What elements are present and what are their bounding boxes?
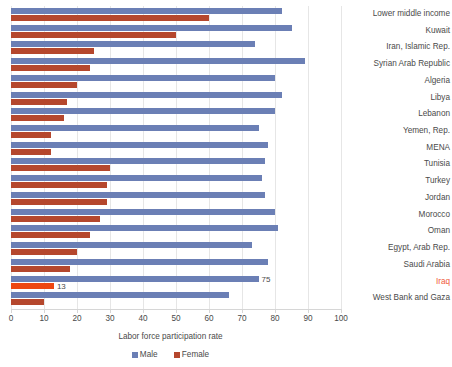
x-tick-label: 90	[303, 314, 312, 324]
category-label: Jordan	[346, 193, 450, 202]
bar-female[interactable]	[11, 15, 209, 21]
bar-male[interactable]	[11, 125, 259, 131]
gridline	[341, 6, 342, 309]
bar-female[interactable]	[11, 299, 44, 305]
bar-value-female: 13	[57, 282, 66, 291]
bar-male[interactable]	[11, 225, 278, 231]
category-label: Libya	[346, 93, 450, 102]
bar-male[interactable]	[11, 142, 268, 148]
category-label: Lebanon	[346, 109, 450, 118]
bar-female[interactable]	[11, 32, 176, 38]
bar-female[interactable]	[11, 249, 77, 255]
bar-male[interactable]	[11, 92, 282, 98]
category-label: Iran, Islamic Rep.	[346, 42, 450, 51]
bar-female[interactable]	[11, 48, 94, 54]
bar-male[interactable]	[11, 108, 275, 114]
x-tick-label: 100	[334, 314, 348, 324]
bar-female[interactable]	[11, 65, 90, 71]
category-label: Morocco	[346, 210, 450, 219]
bar-male[interactable]	[11, 158, 265, 164]
x-tick	[176, 309, 177, 313]
bar-male[interactable]	[11, 209, 275, 215]
category-label: Iraq	[346, 277, 450, 286]
category-label: Syrian Arab Republic	[346, 59, 450, 68]
x-tick	[341, 309, 342, 313]
x-tick-label: 0	[9, 314, 14, 324]
bar-female[interactable]	[11, 82, 77, 88]
category-label: Lower middle income	[346, 9, 450, 18]
bar-female[interactable]	[11, 266, 70, 272]
category-label: Turkey	[346, 176, 450, 185]
bar-female[interactable]	[11, 149, 51, 155]
legend-label-female: Female	[182, 350, 209, 359]
bar-female[interactable]	[11, 115, 64, 121]
bar-female[interactable]	[11, 199, 107, 205]
legend-swatch-female-icon	[174, 352, 180, 358]
bar-female[interactable]	[11, 182, 107, 188]
x-tick-label: 70	[237, 314, 246, 324]
x-tick-label: 30	[105, 314, 114, 324]
category-label: Saudi Arabia	[346, 260, 450, 269]
x-tick-label: 20	[72, 314, 81, 324]
bar-female[interactable]	[11, 216, 100, 222]
legend-swatch-male-icon	[132, 352, 138, 358]
x-tick-label: 60	[204, 314, 213, 324]
bar-male[interactable]	[11, 25, 292, 31]
x-tick	[77, 309, 78, 313]
bar-male[interactable]	[11, 41, 255, 47]
gridline	[308, 6, 309, 309]
x-tick	[110, 309, 111, 313]
x-tick	[44, 309, 45, 313]
category-label: Oman	[346, 226, 450, 235]
x-tick-label: 10	[39, 314, 48, 324]
x-tick	[275, 309, 276, 313]
legend-label-male: Male	[140, 350, 158, 359]
bar-male[interactable]	[11, 175, 262, 181]
bar-female[interactable]	[11, 232, 90, 238]
bar-male[interactable]	[11, 259, 268, 265]
legend-item-male[interactable]: Male	[132, 350, 158, 359]
category-label: Kuwait	[346, 26, 450, 35]
bar-female[interactable]	[11, 99, 67, 105]
bar-value-male: 75	[262, 275, 271, 284]
x-tick	[209, 309, 210, 313]
gridline	[275, 6, 276, 309]
x-tick	[242, 309, 243, 313]
x-tick	[11, 309, 12, 313]
category-label: Algeria	[346, 76, 450, 85]
category-label: West Bank and Gaza	[346, 293, 450, 302]
bar-male[interactable]	[11, 8, 282, 14]
bar-male[interactable]	[11, 58, 305, 64]
x-tick	[143, 309, 144, 313]
bar-female[interactable]	[11, 283, 54, 289]
legend-item-female[interactable]: Female	[174, 350, 209, 359]
labor-force-participation-bar-chart: Lower middle incomeKuwaitIran, Islamic R…	[0, 0, 452, 367]
x-tick	[308, 309, 309, 313]
bar-male[interactable]	[11, 292, 229, 298]
x-tick-label: 50	[171, 314, 180, 324]
category-label: Egypt, Arab Rep.	[346, 243, 450, 252]
bar-male[interactable]	[11, 276, 259, 282]
bar-female[interactable]	[11, 132, 51, 138]
category-label: Yemen, Rep.	[346, 126, 450, 135]
bar-male[interactable]	[11, 75, 275, 81]
x-axis-title: Labor force participation rate	[0, 332, 341, 341]
category-label: MENA	[346, 143, 450, 152]
x-tick-label: 80	[270, 314, 279, 324]
bar-female[interactable]	[11, 165, 110, 171]
category-label: Tunisia	[346, 159, 450, 168]
bar-male[interactable]	[11, 242, 252, 248]
chart-legend: Male Female	[0, 350, 341, 359]
bar-male[interactable]	[11, 192, 265, 198]
x-tick-label: 40	[138, 314, 147, 324]
